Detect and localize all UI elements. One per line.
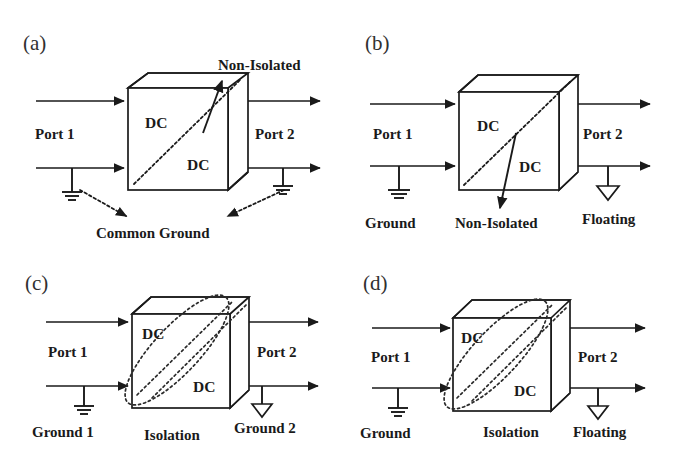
panel-c-ground-left-label: Ground 1 (32, 424, 94, 440)
panel-b-dc-label-1: DC (477, 117, 499, 134)
panel-a-dc-label-2: DC (187, 156, 209, 173)
panel-a-ground-left-icon (62, 168, 82, 200)
panel-a-nonisolated-label: Non-Isolated (218, 57, 301, 73)
panel-b-ground-left-label: Ground (365, 215, 416, 231)
panel-b-port-left-label: Port 1 (373, 126, 413, 142)
panel-d-port-left-label: Port 1 (371, 349, 411, 365)
panel-c-dc-label-2: DC (193, 378, 215, 395)
panel-c-ground-right-label: Ground 2 (234, 420, 296, 436)
panel-d-floating-right-icon (588, 388, 608, 419)
panel-c-dc-label-1: DC (142, 325, 164, 342)
panel-d-floating-right-label: Floating (573, 424, 627, 440)
panel-a-common-ground-label: Common Ground (96, 225, 210, 241)
panel-a-port-right-label: Port 2 (255, 126, 295, 142)
panel-b-dc-label-2: DC (519, 158, 541, 175)
panel-b: (b) DC DC Non-Isolated Port 1 Port 2 (365, 31, 650, 231)
panel-c: (c) DC DC Port 1 Port 2 (25, 271, 318, 443)
panel-b-letter: (b) (365, 31, 390, 55)
diagram-canvas: (a) DC DC Non-Isolated Port 1 Port 2 (0, 0, 682, 455)
panel-b-floating-right-label: Floating (582, 211, 636, 227)
panel-a-letter: (a) (23, 31, 46, 55)
panel-a-common-ground-pointer-right (228, 190, 284, 216)
panel-b-floating-right-icon (597, 166, 619, 200)
panel-c-port-left-label: Port 1 (48, 344, 88, 360)
panel-d-isolation-label: Isolation (483, 424, 540, 440)
panel-c-ground-left-icon (74, 386, 94, 414)
panel-a: (a) DC DC Non-Isolated Port 1 Port 2 (23, 31, 320, 241)
panel-a-common-ground-pointer-left (80, 190, 126, 216)
panel-d-ground-left-icon (388, 388, 408, 416)
panel-c-port-right-label: Port 2 (257, 344, 297, 360)
figure-root: (a) DC DC Non-Isolated Port 1 Port 2 (0, 0, 682, 455)
panel-b-port-right-label: Port 2 (583, 126, 623, 142)
panel-c-letter: (c) (25, 271, 48, 295)
panel-d-port-right-label: Port 2 (578, 349, 618, 365)
panel-b-nonisolated-label: Non-Isolated (455, 215, 538, 231)
panel-a-port-left-label: Port 1 (35, 126, 75, 142)
panel-c-ground-right-icon (252, 386, 272, 417)
panel-d: (d) DC DC Port 1 Port 2 (360, 271, 645, 441)
panel-d-dc-label-1: DC (461, 329, 483, 346)
panel-d-dc-label-2: DC (514, 382, 536, 399)
panel-d-ground-left-label: Ground (360, 425, 411, 441)
panel-c-isolation-label: Isolation (144, 427, 201, 443)
panel-b-ground-left-icon (388, 166, 410, 198)
panel-a-dc-label-1: DC (145, 114, 167, 131)
panel-d-letter: (d) (363, 271, 388, 295)
